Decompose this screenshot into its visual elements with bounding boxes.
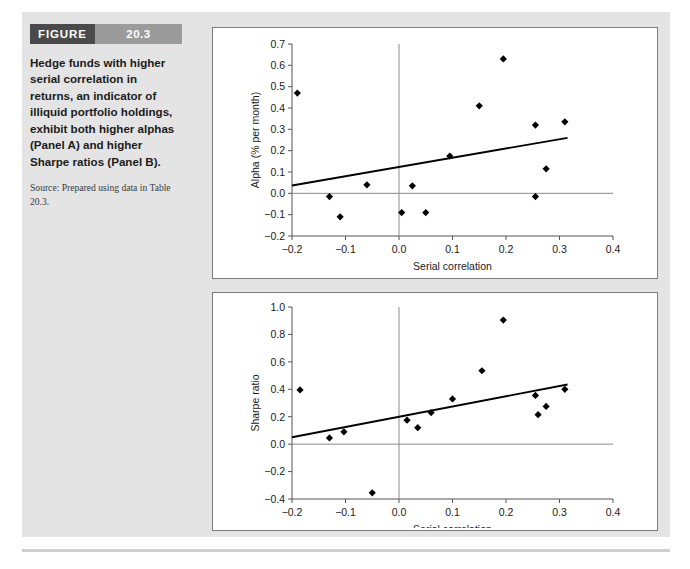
x-axis-tick-label: 0.2 xyxy=(499,506,514,518)
x-axis-title: Serial correlation xyxy=(413,260,492,272)
x-axis-tick-label: −0.1 xyxy=(335,506,356,518)
figure-header-number: 20.3 xyxy=(95,24,182,44)
figure-header-banner: FIGURE 20.3 xyxy=(30,24,182,44)
x-axis-tick-label: 0.2 xyxy=(499,243,514,255)
x-axis-tick-label: 0.1 xyxy=(445,506,460,518)
data-point-marker xyxy=(500,316,507,323)
data-point-marker xyxy=(543,403,550,410)
y-axis-tick-label: 0.5 xyxy=(270,80,285,92)
y-axis-tick-label: 0.6 xyxy=(270,356,285,368)
y-axis-tick-label: −0.1 xyxy=(264,208,285,220)
data-point-marker xyxy=(340,428,347,435)
x-axis-tick-label: 0.4 xyxy=(606,243,621,255)
trend-line xyxy=(292,138,568,186)
y-axis-tick-label: 0.2 xyxy=(270,144,285,156)
y-axis-tick-label: 0.6 xyxy=(270,59,285,71)
panel-a-scatter-chart: −0.2−0.10.00.10.20.30.40.50.60.7−0.2−0.1… xyxy=(213,28,655,276)
data-point-marker xyxy=(326,434,333,441)
y-axis-tick-label: 0.4 xyxy=(270,102,285,114)
x-axis-tick-label: 0.3 xyxy=(552,243,567,255)
data-point-marker xyxy=(532,121,539,128)
y-axis-tick-label: 0.2 xyxy=(270,411,285,423)
data-point-marker xyxy=(535,411,542,418)
figure-source-note: Source: Prepared using data in Table 20.… xyxy=(30,181,182,208)
panel-a-chart-box: −0.2−0.10.00.10.20.30.40.50.60.7−0.2−0.1… xyxy=(212,27,658,279)
data-point-marker xyxy=(543,165,550,172)
data-point-marker xyxy=(561,386,568,393)
x-axis-tick-label: −0.2 xyxy=(282,506,303,518)
y-axis-tick-label: −0.4 xyxy=(264,493,285,505)
x-axis-tick-label: −0.1 xyxy=(335,243,356,255)
y-axis-tick-label: 0.1 xyxy=(270,166,285,178)
y-axis-tick-label: −0.2 xyxy=(264,230,285,242)
data-point-marker xyxy=(476,102,483,109)
figure-header-word: FIGURE xyxy=(30,24,95,44)
data-point-marker xyxy=(363,181,370,188)
data-point-marker xyxy=(561,118,568,125)
data-point-marker xyxy=(326,193,333,200)
data-point-marker xyxy=(337,213,344,220)
x-axis-tick-label: 0.0 xyxy=(392,243,407,255)
data-point-marker xyxy=(296,386,303,393)
data-point-marker xyxy=(403,417,410,424)
y-axis-tick-label: 1.0 xyxy=(270,301,285,313)
data-point-marker xyxy=(409,182,416,189)
y-axis-tick-label: −0.2 xyxy=(264,465,285,477)
panel-b-scatter-chart: −0.4−0.20.00.20.40.60.81.0−0.2−0.10.00.1… xyxy=(213,293,655,528)
panel-b-chart-box: −0.4−0.20.00.20.40.60.81.0−0.2−0.10.00.1… xyxy=(212,292,658,531)
y-axis-tick-label: 0.0 xyxy=(270,187,285,199)
y-axis-tick-label: 0.3 xyxy=(270,123,285,135)
x-axis-tick-label: 0.3 xyxy=(552,506,567,518)
data-point-marker xyxy=(532,193,539,200)
y-axis-tick-label: 0.8 xyxy=(270,328,285,340)
x-axis-tick-label: 0.1 xyxy=(445,243,460,255)
x-axis-tick-label: 0.4 xyxy=(606,506,621,518)
data-point-marker xyxy=(478,367,485,374)
data-point-marker xyxy=(294,89,301,96)
data-point-marker xyxy=(449,395,456,402)
figure-caption-text: Hedge funds with higher serial correlati… xyxy=(30,55,182,170)
y-axis-title: Alpha (% per month) xyxy=(249,92,261,188)
y-axis-tick-label: 0.4 xyxy=(270,383,285,395)
y-axis-tick-label: 0.0 xyxy=(270,438,285,450)
data-point-marker xyxy=(369,489,376,496)
figure-caption-column: FIGURE 20.3 Hedge funds with higher seri… xyxy=(30,24,200,208)
y-axis-title: Sharpe ratio xyxy=(249,374,261,431)
data-point-marker xyxy=(532,392,539,399)
x-axis-tick-label: 0.0 xyxy=(392,506,407,518)
data-point-marker xyxy=(414,424,421,431)
figure-bottom-rule xyxy=(22,549,670,552)
x-axis-title: Serial correlation xyxy=(413,523,492,528)
data-point-marker xyxy=(422,209,429,216)
data-point-marker xyxy=(500,55,507,62)
y-axis-tick-label: 0.7 xyxy=(270,38,285,50)
figure-page: FIGURE 20.3 Hedge funds with higher seri… xyxy=(0,0,690,569)
x-axis-tick-label: −0.2 xyxy=(282,243,303,255)
